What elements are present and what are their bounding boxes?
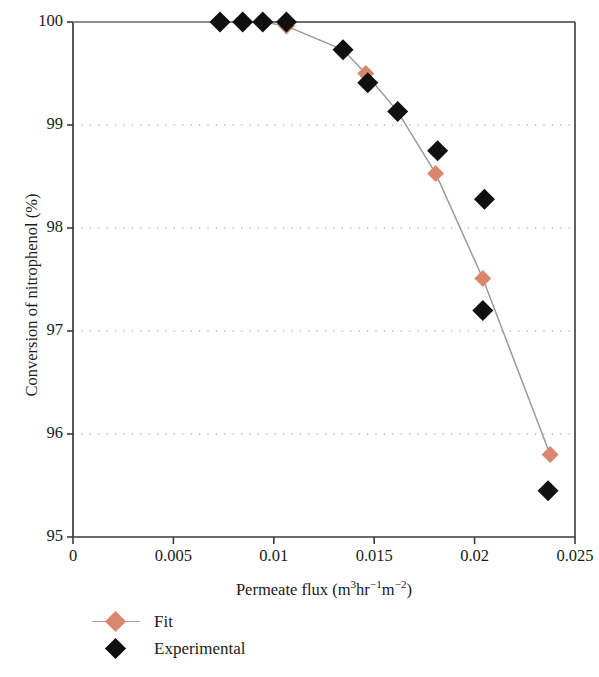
y-tick-label-100: 100 [23, 11, 63, 31]
y-tick-label-99: 99 [23, 114, 63, 134]
x-tick-label-0.015: 0.015 [339, 546, 409, 566]
legend-label-experimental: Experimental [154, 639, 246, 659]
fit-point-7 [427, 165, 444, 182]
axis-lines [73, 22, 575, 537]
experimental-point-10 [538, 480, 559, 501]
x-axis-title-tail: ) [407, 580, 413, 599]
legend-item-experimental: Experimental [92, 635, 392, 662]
fit-point-8 [474, 270, 491, 287]
y-tick-label-95: 95 [23, 526, 63, 546]
x-axis-title-sup-2: −1 [370, 578, 382, 590]
legend-label-fit: Fit [154, 612, 173, 632]
x-tick-label-0.005: 0.005 [138, 546, 208, 566]
axis-ticks [67, 22, 575, 544]
x-tick-label-0.02: 0.02 [440, 546, 510, 566]
experimental-point-8 [474, 189, 495, 210]
experimental-point-7 [427, 140, 448, 161]
y-tick-label-98: 98 [23, 217, 63, 237]
chart-legend: Fit Experimental [92, 608, 392, 662]
fit-diamond-icon [105, 610, 126, 631]
experimental-point-6 [387, 101, 408, 122]
experimental-point-2 [252, 12, 273, 33]
experimental-legend-key [92, 638, 140, 660]
x-axis-title: Permeate flux (m3hr−1m−2) [73, 578, 575, 600]
fit-legend-key [92, 611, 140, 633]
x-axis-title-sup-3: −2 [395, 578, 407, 590]
gridlines [73, 125, 575, 434]
fit-point-9 [542, 446, 559, 463]
experimental-point-9 [472, 300, 493, 321]
legend-item-fit: Fit [92, 608, 392, 635]
x-tick-label-0.01: 0.01 [239, 546, 309, 566]
y-tick-label-97: 97 [23, 320, 63, 340]
x-tick-label-0: 0 [38, 546, 108, 566]
experimental-point-0 [209, 12, 230, 33]
x-axis-title-text: Permeate flux (m [236, 580, 351, 599]
experimental-data-points [209, 12, 558, 502]
y-tick-label-96: 96 [23, 423, 63, 443]
x-axis-title-mid-2: m [382, 580, 395, 599]
fit-curve [220, 22, 550, 455]
y-axis-title: Conversion of nitrophenol (%) [22, 145, 42, 445]
experimental-point-1 [232, 12, 253, 33]
chart-figure: Conversion of nitrophenol (%) Permeate f… [0, 0, 599, 677]
plot-canvas [0, 0, 599, 677]
experimental-diamond-icon [105, 637, 126, 658]
fit-data-points [211, 14, 558, 464]
fit-line [73, 22, 550, 455]
x-axis-title-mid-1: hr [356, 580, 370, 599]
x-tick-label-0.025: 0.025 [540, 546, 599, 566]
